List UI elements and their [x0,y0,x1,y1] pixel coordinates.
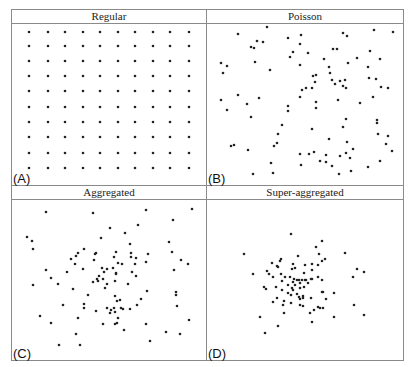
data-point [64,167,67,170]
data-point [99,31,102,34]
data-point [82,60,85,63]
data-point [47,31,50,34]
data-point [331,165,334,168]
data-point [315,74,318,77]
data-point [147,253,150,256]
data-point [259,316,262,319]
data-point [333,316,336,319]
data-point [299,282,302,285]
data-point [377,133,380,136]
data-point [345,118,348,121]
data-point [299,96,302,99]
data-point [116,322,119,325]
data-point [243,253,246,256]
data-point [356,57,359,60]
data-point [32,284,35,287]
data-point [103,271,106,274]
data-point [28,152,31,155]
data-point [99,121,102,124]
data-point [299,64,302,67]
data-point [230,145,233,148]
data-point [342,32,345,35]
data-point [270,162,273,165]
data-point [387,135,390,138]
data-point [352,148,355,151]
data-point [102,323,105,326]
data-point [315,107,318,110]
data-point [152,152,155,155]
data-point [152,167,155,170]
data-point [83,248,86,251]
data-point [134,167,137,170]
data-point [99,75,102,78]
data-point [305,87,308,90]
data-point [168,241,171,244]
data-point [392,31,395,34]
data-point [64,75,67,78]
data-point [317,276,320,279]
data-point [117,75,120,78]
data-point [77,252,80,255]
data-point [363,271,366,274]
data-point [117,90,120,93]
data-point [333,292,336,295]
data-point [277,325,280,328]
data-point [134,106,137,109]
data-point [266,26,269,29]
data-point [79,344,82,347]
data-point [106,283,109,286]
data-point [129,308,132,311]
data-point [152,106,155,109]
data-point [117,60,120,63]
data-point [375,78,378,81]
data-point [353,304,356,307]
data-point [328,138,331,141]
data-point [346,141,349,144]
data-point [319,160,322,163]
data-point [356,268,359,271]
data-point [112,267,115,270]
data-point [169,106,172,109]
data-point [272,172,275,175]
scatter-points-layer [0,0,411,367]
data-point [252,173,255,176]
data-point [117,167,120,170]
data-point [280,273,283,276]
data-point [45,269,48,272]
data-point [188,45,191,48]
data-point [307,282,310,285]
data-point [220,99,223,102]
data-point [28,136,31,139]
data-point [82,167,85,170]
data-point [75,255,78,258]
data-point [325,154,328,157]
data-point [175,291,178,294]
data-point [258,97,261,100]
data-point [359,102,362,105]
data-point [99,136,102,139]
data-point [28,60,31,63]
data-point [321,240,324,243]
data-point [337,99,340,102]
data-point [188,167,191,170]
data-point [152,90,155,93]
data-point [310,297,313,300]
data-point [28,121,31,124]
data-point [266,270,269,273]
data-point [253,47,256,50]
data-point [188,319,191,322]
data-point [276,142,279,145]
data-point [145,261,148,264]
data-point [99,90,102,93]
data-point [117,262,120,265]
data-point [82,106,85,109]
data-point [313,151,316,154]
data-point [109,227,112,230]
data-point [334,83,337,86]
data-point [322,307,325,310]
data-point [72,288,75,291]
data-point [311,263,314,266]
data-point [287,37,290,40]
data-point [287,110,290,113]
data-point [299,298,302,301]
